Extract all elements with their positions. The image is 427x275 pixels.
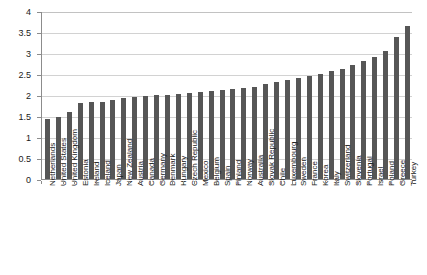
y-axis-tick-label: 4 — [26, 8, 31, 17]
x-axis-tick-label: Israel — [377, 166, 385, 186]
x-axis-tick-mark — [216, 181, 217, 184]
x-axis-tick-mark — [270, 181, 271, 184]
x-axis-tick-label: United Kingdom — [71, 129, 79, 186]
x-axis-tick-label: Hungary — [180, 156, 188, 186]
x-axis-tick-mark — [128, 181, 129, 184]
x-axis-tick-label: Slovenia — [355, 155, 363, 186]
x-axis-tick-label: Italy — [333, 171, 341, 186]
y-axis-tick-label: 1 — [26, 134, 31, 143]
x-axis-tick-mark — [401, 181, 402, 184]
x-axis-tick-label: Estonia — [82, 159, 90, 186]
x-axis-label-slot: Korea — [322, 165, 330, 186]
y-axis-tick-label: 2 — [26, 92, 31, 101]
y-axis: 00.511.522.533.54 — [0, 0, 38, 275]
x-axis-tick-label: Luxembourg — [290, 142, 298, 186]
x-axis-tick-mark — [52, 181, 53, 184]
x-axis-tick-mark — [205, 181, 206, 184]
x-axis-label-slot: United States — [60, 138, 68, 186]
bar — [329, 71, 334, 179]
y-axis-tick-label: 0 — [26, 176, 31, 185]
x-axis-tick-mark — [183, 181, 184, 184]
x-axis-tick-mark — [325, 181, 326, 184]
x-axis-label-slot: Germany — [159, 153, 167, 186]
x-axis-tick-label: Chile — [279, 168, 287, 186]
x-axis-label-slot: Estonia — [82, 159, 90, 186]
x-axis-tick-label: Canada — [148, 158, 156, 186]
x-axis-label-slot: United Kingdom — [71, 129, 79, 186]
x-axis-tick-mark — [281, 181, 282, 184]
bar — [383, 51, 388, 179]
x-axis-label-slot: Slovak Republic — [268, 129, 276, 186]
x-axis-tick-label: Iceland — [104, 160, 112, 186]
x-axis-label-slot: Japan — [115, 164, 123, 186]
bars-layer — [42, 12, 412, 179]
x-axis-tick-mark — [96, 181, 97, 184]
x-axis-tick-label: Finland — [235, 160, 243, 186]
x-axis-label-slot: Ireland — [93, 162, 101, 186]
x-axis-tick-label: Turkey — [410, 162, 418, 186]
x-axis-tick-mark — [139, 181, 140, 184]
x-axis-tick-label: Netherlands — [49, 143, 57, 186]
x-axis-tick-mark — [357, 181, 358, 184]
x-axis-tick-label: Slovak Republic — [268, 129, 276, 186]
x-axis-tick-label: Denmark — [169, 154, 177, 186]
x-axis-label-slot: Switzerland — [344, 145, 352, 186]
x-axis-tick-mark — [150, 181, 151, 184]
x-axis-tick-label: Poland — [388, 161, 396, 186]
x-axis-label-slot: Australia — [257, 155, 265, 186]
x-axis-label-slot: Mexico — [202, 161, 210, 186]
x-axis-tick-label: Portugal — [366, 156, 374, 186]
x-axis-tick-mark — [161, 181, 162, 184]
x-axis-tick-label: United States — [60, 138, 68, 186]
x-axis-tick-label: Czech Republic — [191, 130, 199, 186]
x-axis-label-slot: France — [311, 161, 319, 186]
bar — [394, 37, 399, 179]
x-axis-tick-mark — [412, 181, 413, 184]
x-axis-tick-mark — [292, 181, 293, 184]
x-axis-label-slot: Greece — [399, 160, 407, 186]
y-axis-tick-label: 1.5 — [18, 113, 31, 122]
x-axis-tick-mark — [314, 181, 315, 184]
x-axis-label-slot: Denmark — [169, 154, 177, 186]
x-axis-tick-label: Germany — [159, 153, 167, 186]
x-axis-tick-mark — [41, 181, 42, 184]
x-axis-tick-label: Japan — [115, 164, 123, 186]
x-axis-tick-label: Australia — [257, 155, 265, 186]
y-axis-tick-label: 0.5 — [18, 155, 31, 164]
x-axis-tick-mark — [227, 181, 228, 184]
x-axis-label-slot: Iceland — [104, 160, 112, 186]
x-axis-label-slot: Portugal — [366, 156, 374, 186]
x-axis-tick-mark — [303, 181, 304, 184]
x-axis-tick-label: New Zealand — [126, 139, 134, 186]
x-axis-tick-label: Belgium — [213, 157, 221, 186]
x-axis-tick-mark — [237, 181, 238, 184]
x-axis-label-slot: Czech Republic — [191, 130, 199, 186]
x-axis-label-slot: Slovenia — [355, 155, 363, 186]
x-axis-tick-mark — [172, 181, 173, 184]
x-axis-tick-mark — [336, 181, 337, 184]
x-axis-label-slot: Hungary — [180, 156, 188, 186]
x-axis: NetherlandsUnited StatesUnited KingdomEs… — [41, 181, 412, 275]
x-axis-label-slot: Chile — [279, 168, 287, 186]
x-axis-tick-mark — [347, 181, 348, 184]
x-axis-tick-label: Ireland — [93, 162, 101, 186]
x-axis-tick-label: Mexico — [202, 161, 210, 186]
x-axis-label-slot: Israel — [377, 166, 385, 186]
x-axis-label-slot: Norway — [246, 159, 254, 186]
x-axis-tick-mark — [63, 181, 64, 184]
x-axis-tick-label: Sweden — [300, 157, 308, 186]
x-axis-tick-label: Greece — [399, 160, 407, 186]
x-axis-tick-mark — [248, 181, 249, 184]
x-axis-label-slot: Turkey — [410, 162, 418, 186]
x-axis-tick-mark — [106, 181, 107, 184]
x-axis-tick-label: Spain — [224, 166, 232, 186]
x-axis-label-slot: Luxembourg — [290, 142, 298, 186]
y-axis-tick-label: 3.5 — [18, 29, 31, 38]
x-axis-tick-label: Norway — [246, 159, 254, 186]
x-axis-tick-mark — [368, 181, 369, 184]
x-axis-tick-mark — [117, 181, 118, 184]
x-axis-label-slot: Canada — [148, 158, 156, 186]
x-axis-label-slot: Finland — [235, 160, 243, 186]
bar — [405, 26, 410, 179]
x-axis-tick-mark — [259, 181, 260, 184]
